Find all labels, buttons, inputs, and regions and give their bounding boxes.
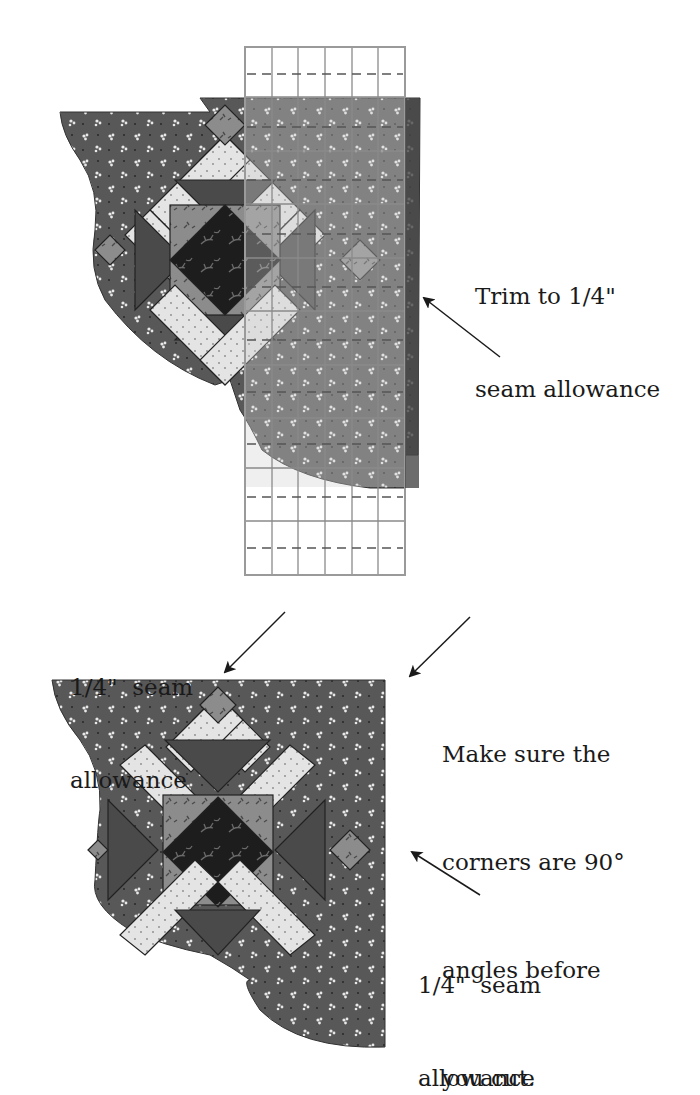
callout-line: 1/4" seam bbox=[418, 970, 541, 1001]
arrow-top-left bbox=[225, 612, 285, 672]
callout-trim-line1: Trim to 1/4" bbox=[475, 281, 660, 312]
callout-line: allowance bbox=[70, 765, 193, 796]
callout-seam-right-bottom: 1/4" seam allowance bbox=[418, 908, 541, 1095]
callout-line: 1/4" seam bbox=[70, 672, 193, 703]
callout-line: corners are 90° bbox=[442, 844, 625, 880]
top-block-figure bbox=[60, 47, 500, 575]
callout-line: allowance bbox=[418, 1063, 541, 1094]
seam-strip bbox=[405, 98, 419, 488]
callout-trim: Trim to 1/4" seam allowance bbox=[475, 219, 660, 436]
callout-line: Make sure the bbox=[442, 736, 625, 772]
callout-trim-line2: seam allowance bbox=[475, 374, 660, 405]
callout-seam-top-left: 1/4" seam allowance bbox=[70, 610, 193, 827]
